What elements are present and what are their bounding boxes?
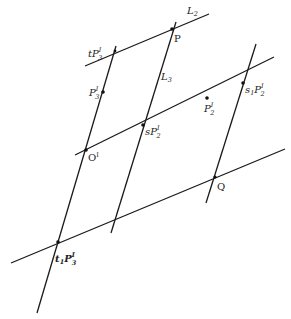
line-middle: [75, 57, 274, 155]
label-L2: L2: [186, 5, 198, 18]
point-t1P3: [56, 240, 60, 244]
line-bottom: [11, 149, 285, 263]
label-P3: PI3: [88, 85, 99, 101]
label-L3: L3: [160, 71, 172, 84]
point-P2: [205, 96, 209, 100]
label-P2: PI2: [203, 101, 214, 117]
geometry-diagram: L2 P L3 tPI3 PI3 OI sPI2 PI2 s1PI2 Q t1P…: [0, 0, 291, 319]
label-s1P2: s1PI2: [245, 82, 265, 98]
label-tP3: tPI3: [88, 46, 102, 62]
label-O: OI: [88, 151, 99, 163]
label-P: P: [174, 33, 181, 44]
label-Q: Q: [217, 181, 225, 192]
point-Q: [213, 175, 216, 178]
point-P3: [101, 90, 105, 94]
label-t1P3: t1PI3: [55, 251, 77, 267]
point-tP3: [114, 50, 117, 53]
label-sP2: sPI2: [145, 124, 161, 140]
point-P: [170, 27, 174, 31]
line-L3: [111, 22, 176, 233]
line-left-transversal: [37, 46, 116, 313]
line-L2: [85, 14, 209, 66]
